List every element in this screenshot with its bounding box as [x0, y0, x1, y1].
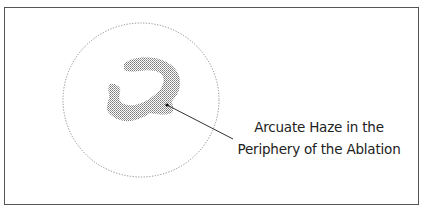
annotation-line-2: Periphery of the Ablation — [226, 138, 412, 160]
annotation-line-1: Arcuate Haze in the — [226, 116, 412, 138]
ablation-zone-circle — [63, 23, 219, 177]
arcuate-haze-region — [107, 57, 180, 121]
leader-dot — [165, 103, 168, 106]
ablation-illustration — [0, 0, 426, 213]
leader-line — [167, 105, 233, 139]
